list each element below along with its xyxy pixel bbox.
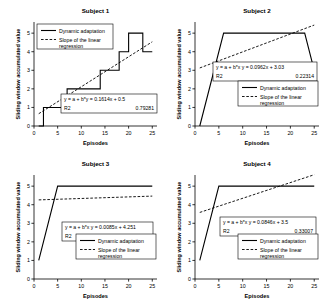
chart-subject-2: Subject 20510152025012345EpisodesSliding… — [163, 0, 325, 153]
regression-equation: y = a + b*x y = 0.0085x + 4.251 — [65, 224, 136, 230]
panel-title: Subject 1 — [82, 7, 110, 14]
legend-label-regression-slope-line1: Slope of the linear — [98, 247, 140, 253]
x-tick-label: 10 — [240, 130, 246, 136]
x-tick-label: 20 — [287, 130, 293, 136]
legend-label-regression-slope-line2: regression — [260, 253, 284, 259]
legend-label-regression-slope-line2: regression — [98, 253, 122, 259]
x-axis-label: Episodes — [245, 293, 270, 299]
x-tick-label: 0 — [194, 130, 197, 136]
r2-label: R2 — [223, 228, 230, 234]
x-tick-label: 25 — [311, 283, 317, 289]
chart-subject-3: Subject 30510152025012345EpisodesSliding… — [0, 153, 163, 306]
x-tick-label: 15 — [264, 130, 270, 136]
y-tick-label: 3 — [27, 220, 30, 226]
y-tick-label: 3 — [188, 67, 191, 73]
x-tick-label: 20 — [126, 283, 132, 289]
regression-equation: y = a + b*y = 0.1614x + 0.5 — [64, 96, 125, 102]
y-tick-label: 1 — [27, 257, 30, 263]
series-regression-slope — [39, 196, 153, 200]
x-tick-label: 5 — [56, 130, 59, 136]
y-tick-label: 0 — [27, 123, 30, 129]
legend-label-regression-slope-line1: Slope of the linear — [260, 247, 302, 253]
y-tick-label: 2 — [27, 239, 30, 245]
panel-title: Subject 2 — [243, 7, 271, 14]
x-tick-label: 0 — [194, 283, 197, 289]
x-tick-label: 5 — [217, 283, 220, 289]
panel-subject-1: Subject 10510152025012345EpisodesSliding… — [0, 0, 163, 153]
y-tick-label: 2 — [27, 86, 30, 92]
x-tick-label: 0 — [33, 283, 36, 289]
x-tick-label: 25 — [149, 283, 155, 289]
y-tick-label: 0 — [27, 276, 30, 282]
y-tick-label: 0 — [188, 123, 191, 129]
x-tick-label: 25 — [149, 130, 155, 136]
regression-equation: y = a + b*x y = 0.0962x + 3.03 — [216, 64, 284, 70]
y-tick-label: 3 — [27, 67, 30, 73]
x-tick-label: 20 — [287, 283, 293, 289]
y-tick-label: 4 — [188, 202, 191, 208]
chart-subject-1: Subject 10510152025012345EpisodesSliding… — [0, 0, 163, 153]
r2-value: 0.33007 — [295, 228, 314, 234]
y-tick-label: 2 — [188, 239, 191, 245]
r2-value: 0.79281 — [136, 105, 155, 111]
r2-label: R2 — [216, 73, 223, 79]
x-tick-label: 15 — [102, 130, 108, 136]
legend-label-dynamic-adaptation: Dynamic adaptation — [59, 28, 105, 34]
x-tick-label: 20 — [126, 130, 132, 136]
y-tick-label: 4 — [27, 202, 30, 208]
x-tick-label: 10 — [240, 283, 246, 289]
legend-label-regression-slope-line2: regression — [59, 43, 83, 49]
r2-label: R2 — [64, 105, 71, 111]
x-axis-label: Episodes — [83, 140, 108, 146]
figure-grid: Subject 10510152025012345EpisodesSliding… — [0, 0, 325, 306]
y-axis-label: Sliding window accumulated value — [176, 182, 182, 273]
x-tick-label: 15 — [264, 283, 270, 289]
y-tick-label: 1 — [27, 104, 30, 110]
series-regression-slope — [200, 25, 314, 68]
y-tick-label: 5 — [27, 183, 30, 189]
legend-label-regression-slope-line1: Slope of the linear — [260, 94, 302, 100]
x-tick-label: 5 — [56, 283, 59, 289]
x-tick-label: 15 — [102, 283, 108, 289]
panel-title: Subject 3 — [82, 160, 110, 167]
y-tick-label: 4 — [188, 49, 191, 55]
y-axis-label: Sliding window accumulated value — [15, 182, 21, 273]
y-tick-label: 1 — [188, 257, 191, 263]
x-axis-label: Episodes — [245, 140, 270, 146]
x-tick-label: 5 — [217, 130, 220, 136]
y-axis-label: Sliding window accumulated value — [176, 29, 182, 120]
chart-subject-4: Subject 40510152025012345EpisodesSliding… — [163, 153, 325, 306]
panel-subject-2: Subject 20510152025012345EpisodesSliding… — [163, 0, 325, 153]
x-tick-label: 10 — [78, 283, 84, 289]
y-tick-label: 1 — [188, 104, 191, 110]
x-tick-label: 25 — [311, 130, 317, 136]
legend-label-regression-slope-line2: regression — [260, 100, 284, 106]
x-tick-label: 0 — [33, 130, 36, 136]
r2-label: R2 — [65, 233, 72, 239]
legend-label-dynamic-adaptation: Dynamic adaptation — [260, 85, 306, 91]
x-tick-label: 10 — [78, 130, 84, 136]
y-tick-label: 5 — [27, 30, 30, 36]
y-tick-label: 2 — [188, 86, 191, 92]
legend-label-regression-slope-line1: Slope of the linear — [59, 37, 101, 43]
legend-label-dynamic-adaptation: Dynamic adaptation — [260, 238, 306, 244]
panel-subject-3: Subject 30510152025012345EpisodesSliding… — [0, 153, 163, 306]
panel-title: Subject 4 — [243, 160, 271, 167]
y-tick-label: 4 — [27, 49, 30, 55]
panel-subject-4: Subject 40510152025012345EpisodesSliding… — [163, 153, 325, 306]
y-tick-label: 3 — [188, 220, 191, 226]
y-axis-label: Sliding window accumulated value — [15, 29, 21, 120]
x-axis-label: Episodes — [83, 293, 108, 299]
regression-equation: y = a + b*x y = 0.0846x + 3.5 — [223, 219, 288, 225]
y-tick-label: 5 — [188, 183, 191, 189]
r2-value: 0.22314 — [296, 73, 315, 79]
legend-label-dynamic-adaptation: Dynamic adaptation — [98, 238, 144, 244]
y-tick-label: 0 — [188, 276, 191, 282]
y-tick-label: 5 — [188, 30, 191, 36]
